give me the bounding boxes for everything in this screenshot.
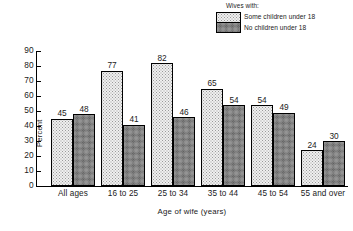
legend-label-some-children: Some children under 18	[244, 12, 315, 22]
bar-value-35-to-44-some: 65	[207, 79, 216, 88]
bar-value-all-ages-none: 48	[79, 105, 88, 114]
y-tick-label-80: 80	[12, 61, 34, 70]
x-axis-tick-labels: All ages 16 to 25 25 to 34 35 to 44 45 t…	[36, 189, 348, 201]
y-tick-label-50: 50	[12, 106, 34, 115]
x-tick-label-45-to-54: 45 to 54	[258, 189, 288, 199]
legend-swatch-no-children	[217, 23, 240, 32]
bar-55-and-over-no-children: 30	[323, 141, 345, 186]
x-tick-label-55-and-over: 55 and over	[301, 189, 345, 199]
bar-value-16-to-25-some: 77	[107, 61, 116, 70]
bar-55-and-over-some-children: 24	[301, 150, 323, 186]
bar-group-55-and-over: 24 30	[301, 51, 345, 186]
bar-group-35-to-44: 65 54	[201, 51, 245, 186]
bar-45-to-54-some-children: 54	[251, 105, 273, 186]
bar-group-25-to-34: 82 46	[151, 51, 195, 186]
x-tick-label-35-to-44: 35 to 44	[208, 189, 238, 199]
bar-group-16-to-25: 77 41	[101, 51, 145, 186]
x-tick-label-25-to-34: 25 to 34	[158, 189, 188, 199]
legend-swatch-box	[216, 12, 241, 33]
bar-all-ages-no-children: 48	[73, 114, 95, 186]
bars-layer: 45 48 77 41 82 46	[37, 51, 348, 186]
bar-25-to-34-no-children: 46	[173, 117, 195, 186]
bar-value-16-to-25-none: 41	[129, 115, 138, 124]
x-axis-title: Age of wife (years)	[36, 207, 348, 216]
bar-35-to-44-some-children: 65	[201, 89, 223, 187]
legend-label-no-children: No children under 18	[244, 23, 315, 33]
bar-45-to-54-no-children: 49	[273, 113, 295, 187]
legend-label-list: Some children under 18 No children under…	[244, 12, 315, 33]
y-tick-label-40: 40	[12, 121, 34, 130]
bar-group-all-ages: 45 48	[51, 51, 95, 186]
bar-16-to-25-some-children: 77	[101, 71, 123, 187]
y-tick-label-70: 70	[12, 76, 34, 85]
bar-chart-figure: Wives with: Some children under 18 No ch…	[0, 0, 353, 231]
legend-body: Some children under 18 No children under…	[216, 12, 352, 33]
bar-group-45-to-54: 54 49	[251, 51, 295, 186]
y-axis-title: Percent	[35, 119, 44, 147]
y-tick-label-90: 90	[12, 46, 34, 55]
bar-all-ages-some-children: 45	[51, 119, 73, 187]
bar-value-45-to-54-some: 54	[257, 96, 266, 105]
bar-value-45-to-54-none: 49	[279, 103, 288, 112]
bar-value-all-ages-some: 45	[57, 109, 66, 118]
bar-value-25-to-34-none: 46	[179, 108, 188, 117]
y-tick-label-0: 0	[12, 181, 34, 190]
legend-swatch-some-children	[217, 13, 240, 23]
bar-value-55-and-over-none: 30	[329, 132, 338, 141]
x-tick-label-16-to-25: 16 to 25	[108, 189, 138, 199]
legend-title: Wives with:	[226, 2, 352, 9]
bar-value-55-and-over-some: 24	[307, 141, 316, 150]
y-tick-label-60: 60	[12, 91, 34, 100]
x-axis-line	[36, 186, 348, 187]
x-tick-label-all-ages: All ages	[58, 189, 88, 199]
plot-area: 90 80 70 60 50 40 30 20	[36, 51, 348, 186]
bar-value-35-to-44-none: 54	[229, 96, 238, 105]
bar-16-to-25-no-children: 41	[123, 125, 145, 187]
bar-25-to-34-some-children: 82	[151, 63, 173, 186]
chart-legend: Wives with: Some children under 18 No ch…	[216, 2, 352, 33]
y-tick-label-30: 30	[12, 136, 34, 145]
bar-35-to-44-no-children: 54	[223, 105, 245, 186]
y-tick-label-20: 20	[12, 151, 34, 160]
bar-value-25-to-34-some: 82	[157, 54, 166, 63]
y-tick-label-10: 10	[12, 166, 34, 175]
